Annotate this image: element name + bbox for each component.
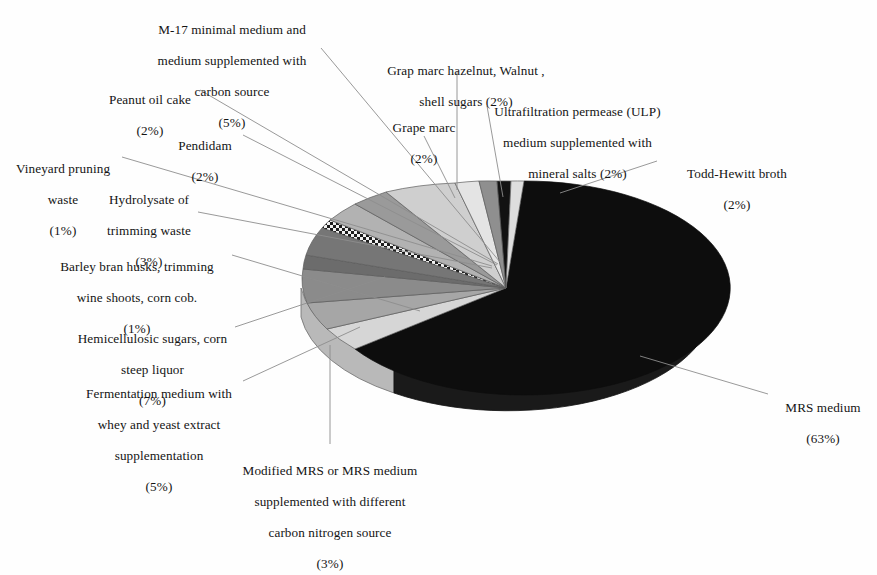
label-ulp-line2: medium supplemented with	[503, 135, 652, 150]
label-hemicellulosic-line1: Hemicellulosic sugars, corn	[78, 331, 228, 346]
label-peanut-line1: Peanut oil cake	[109, 92, 191, 107]
label-m17-line2: medium supplemented with	[158, 53, 307, 68]
label-todd-line1: Todd-Hewitt broth	[687, 166, 787, 181]
label-grape-marc: Grape marc (2%)	[370, 104, 478, 182]
label-hydrolysate-line1: Hydrolysate of	[109, 192, 189, 207]
label-vineyard-line1: Vineyard pruning	[16, 161, 110, 176]
label-barley-line1: Barley bran husks, trimming	[60, 259, 214, 274]
label-hydrolysate-line2: trimming waste	[107, 223, 191, 238]
label-modified-mrs-line3: carbon nitrogen source	[268, 525, 391, 540]
label-ulp-line1: Ultrafiltration permease (ULP)	[494, 104, 660, 119]
label-modified-mrs-pct: (3%)	[215, 556, 445, 572]
label-grape-marc-line1: Grape marc	[393, 120, 456, 135]
label-vineyard-line2: waste	[48, 192, 79, 207]
label-mrs-pct: (63%)	[770, 431, 876, 447]
label-ulp-line3: mineral salts (2%)	[528, 166, 626, 181]
label-modified-mrs-line2: supplemented with different	[254, 494, 405, 509]
label-barley-line2: wine shoots, corn cob.	[77, 290, 198, 305]
label-grap-hazelnut-line1: Grap marc hazelnut, Walnut ,	[387, 63, 545, 78]
label-fermentation-line1: Fermentation medium with	[86, 386, 232, 401]
label-todd-pct: (2%)	[662, 197, 812, 213]
label-modified-mrs: Modified MRS or MRS medium supplemented …	[215, 447, 445, 575]
label-mrs-medium: MRS medium (63%)	[770, 384, 876, 462]
label-fermentation-line3: supplementation	[115, 448, 204, 463]
label-modified-mrs-line1: Modified MRS or MRS medium	[243, 463, 418, 478]
label-pendidam-line1: Pendidam	[178, 138, 232, 153]
label-fermentation-line2: whey and yeast extract	[98, 417, 221, 432]
label-grape-marc-pct: (2%)	[370, 151, 478, 167]
label-mrs-line1: MRS medium	[785, 400, 860, 415]
label-ultrafiltration-permease: Ultrafiltration permease (ULP) medium su…	[470, 88, 685, 182]
label-todd-hewitt: Todd-Hewitt broth (2%)	[662, 150, 812, 228]
label-m17-line1: M-17 minimal medium and	[158, 22, 306, 37]
